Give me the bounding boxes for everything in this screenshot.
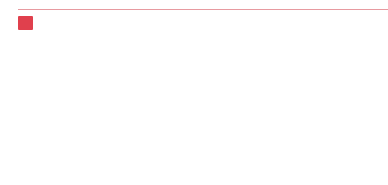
puzzle-figure [0,0,388,185]
